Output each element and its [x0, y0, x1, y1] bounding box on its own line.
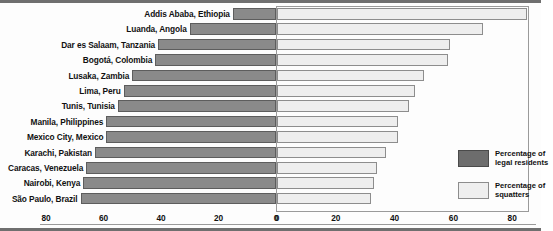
category-label: Lusaka, Zambia [68, 69, 129, 83]
bar-legal-residents [86, 162, 276, 174]
bar-row: Tunis, Tunisia [0, 99, 541, 113]
bar-row: Addis Ababa, Ethiopia [0, 7, 541, 21]
bar-squatters [277, 54, 448, 66]
top-divider-rule [0, 0, 541, 3]
category-label: Luanda, Angola [126, 22, 187, 36]
bar-legal-residents [95, 147, 276, 159]
bar-squatters [277, 85, 415, 97]
bar-legal-residents [158, 39, 276, 51]
bar-squatters [277, 100, 409, 112]
left-axis-tick: 80 [41, 213, 50, 223]
left-axis-tick: 20 [214, 213, 223, 223]
chart-legend: Percentage oflegal residentsPercentage o… [458, 150, 538, 208]
bar-legal-residents [132, 70, 276, 82]
bar-row: Lima, Peru [0, 84, 541, 98]
bar-squatters [277, 177, 374, 189]
bar-squatters [277, 162, 377, 174]
bar-squatters [277, 131, 398, 143]
bar-legal-residents [106, 116, 276, 128]
bar-legal-residents [190, 23, 276, 35]
left-axis-line [40, 224, 280, 225]
right-axis-tick: 40 [390, 213, 399, 223]
bar-legal-residents [81, 193, 277, 205]
bar-squatters [277, 116, 398, 128]
bar-row: Dar es Salaam, Tanzania [0, 38, 541, 52]
bar-legal-residents [155, 54, 276, 66]
bar-legal-residents [106, 131, 276, 143]
category-label: Addis Ababa, Ethiopia [144, 7, 230, 21]
category-label: Manila, Philippines [31, 115, 104, 129]
legend-item: Percentage ofsquatters [458, 182, 538, 204]
category-label: Tunis, Tunisia [62, 99, 115, 113]
legend-label-line2: legal residents [495, 158, 553, 167]
category-label: Mexico City, Mexico [27, 130, 103, 144]
legend-label: Percentage oflegal residents [495, 149, 553, 168]
legend-item: Percentage oflegal residents [458, 150, 538, 172]
bar-legal-residents [83, 177, 276, 189]
bar-row: Manila, Philippines [0, 115, 541, 129]
right-axis-tick: 20 [331, 213, 340, 223]
category-label: Karachi, Pakistan [24, 146, 91, 160]
category-label: Nairobi, Kenya [24, 176, 81, 190]
left-axis: 806040200 [0, 212, 280, 231]
bar-squatters [277, 8, 527, 20]
legend-label-line1: Percentage of [495, 181, 553, 190]
bar-squatters [277, 23, 483, 35]
bar-row: Lusaka, Zambia [0, 69, 541, 83]
bar-legal-residents [124, 85, 276, 97]
category-label: São Paulo, Brazil [12, 192, 78, 206]
left-axis-tick: 60 [99, 213, 108, 223]
legend-label: Percentage ofsquatters [495, 181, 553, 200]
legend-label-line1: Percentage of [495, 149, 553, 158]
bar-legal-residents [118, 100, 276, 112]
bar-row: Mexico City, Mexico [0, 130, 541, 144]
legend-label-line2: squatters [495, 190, 553, 199]
legend-swatch-squatters [458, 182, 489, 199]
bar-squatters [277, 39, 450, 51]
right-axis-line [276, 224, 536, 225]
legend-swatch-legal-residents [458, 150, 489, 167]
bar-legal-residents [233, 8, 276, 20]
left-axis-tick: 40 [156, 213, 165, 223]
right-axis-tick: 80 [508, 213, 517, 223]
category-label: Caracas, Venezuela [8, 161, 83, 175]
bar-squatters [277, 193, 371, 205]
category-label: Bogotá, Colombia [83, 53, 152, 67]
right-axis-tick: 0 [275, 213, 280, 223]
right-axis: 020406080 [276, 212, 541, 231]
bar-row: Bogotá, Colombia [0, 53, 541, 67]
bar-squatters [277, 70, 424, 82]
bar-squatters [277, 147, 386, 159]
right-axis-tick: 60 [449, 213, 458, 223]
category-label: Lima, Peru [79, 84, 120, 98]
bar-row: Luanda, Angola [0, 22, 541, 36]
category-label: Dar es Salaam, Tanzania [61, 38, 155, 52]
